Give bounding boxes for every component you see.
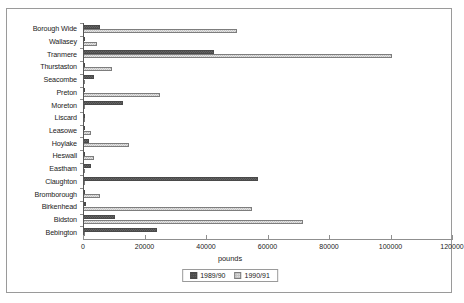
bar-1 [83, 143, 129, 147]
category-label: Preton [11, 89, 77, 96]
bar-0 [83, 164, 91, 168]
y-axis-tick [80, 23, 83, 24]
x-axis-tick-label: 0 [81, 243, 85, 250]
bar-1 [83, 54, 392, 58]
category-axis-labels: Borough WideWallaseyTranmereThurstastonS… [9, 9, 77, 294]
x-axis-tick-label: 100000 [379, 243, 402, 250]
category-label: Tranmere [11, 51, 77, 58]
y-axis-tick [80, 188, 83, 189]
bar-1 [83, 220, 303, 224]
legend-entry-series-1[interactable]: 1990/91 [235, 272, 270, 279]
bar-0 [83, 25, 100, 29]
bar-0 [83, 228, 157, 232]
y-axis-tick [80, 87, 83, 88]
category-label: Birkenhead [11, 203, 77, 210]
y-axis-tick [80, 137, 83, 138]
y-axis-line [83, 23, 84, 239]
bar-0 [83, 177, 258, 181]
bars-layer [77, 9, 453, 294]
bar-1 [83, 67, 112, 71]
bar-1 [83, 42, 97, 46]
category-label: Hoylake [11, 140, 77, 147]
y-axis-tick [80, 214, 83, 215]
category-label: Bebington [11, 229, 77, 236]
bar-0 [83, 215, 115, 219]
category-label: Leasowe [11, 127, 77, 134]
bar-1 [83, 207, 252, 211]
category-label: Wallasey [11, 38, 77, 45]
y-axis-tick [80, 150, 83, 151]
category-label: Heswall [11, 152, 77, 159]
legend-entry-series-0[interactable]: 1989/90 [190, 272, 225, 279]
bar-0 [83, 75, 94, 79]
legend-label-series-0: 1989/90 [200, 272, 225, 279]
y-axis-tick [80, 125, 83, 126]
y-axis-tick [80, 201, 83, 202]
x-axis-tick [83, 235, 84, 240]
bar-1 [83, 29, 237, 33]
plot-area: Borough WideWallaseyTranmereThurstastonS… [7, 9, 453, 294]
category-label: Seacombe [11, 76, 77, 83]
y-axis-tick [80, 175, 83, 176]
legend-label-series-1: 1990/91 [245, 272, 270, 279]
x-axis-tick [145, 235, 146, 240]
chart-frame: Borough WideWallaseyTranmereThurstastonS… [6, 8, 452, 293]
x-axis-tick-label: 120000 [440, 243, 463, 250]
category-label: Borough Wide [11, 25, 77, 32]
category-label: Thurstaston [11, 63, 77, 70]
y-axis-tick [80, 48, 83, 49]
bar-1 [83, 131, 91, 135]
x-axis-tick [391, 235, 392, 240]
category-label: Eastham [11, 165, 77, 172]
chart-legend: 1989/90 1990/91 [182, 269, 278, 282]
y-axis-tick [80, 61, 83, 62]
x-axis-tick [329, 235, 330, 240]
y-axis-tick [80, 74, 83, 75]
x-axis-tick-label: 20000 [135, 243, 154, 250]
x-axis-tick-label: 60000 [258, 243, 277, 250]
x-axis-tick [206, 235, 207, 240]
series-1-swatch-icon [235, 272, 242, 279]
category-label: Moreton [11, 102, 77, 109]
y-axis-tick [80, 226, 83, 227]
category-label: Claughton [11, 178, 77, 185]
series-0-swatch-icon [190, 272, 197, 279]
x-axis-title: pounds [7, 254, 453, 263]
x-axis-tick [452, 235, 453, 240]
bar-1 [83, 93, 160, 97]
y-axis-tick [80, 112, 83, 113]
bar-0 [83, 101, 123, 105]
x-axis-tick [268, 235, 269, 240]
category-label: Liscard [11, 114, 77, 121]
y-axis-tick [80, 99, 83, 100]
bar-0 [83, 50, 214, 54]
x-axis-tick-label: 80000 [319, 243, 338, 250]
category-label: Bromborough [11, 191, 77, 198]
y-axis-tick [80, 163, 83, 164]
x-axis-tick-label: 40000 [196, 243, 215, 250]
y-axis-tick [80, 36, 83, 37]
category-label: Bidston [11, 216, 77, 223]
bar-1 [83, 194, 100, 198]
bar-1 [83, 156, 94, 160]
